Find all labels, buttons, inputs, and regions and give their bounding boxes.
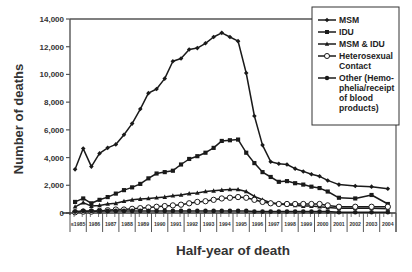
legend-label: MSM xyxy=(339,15,359,25)
y-tick-label: 12,000 xyxy=(40,43,65,52)
x-tick-label: 1998 xyxy=(284,221,296,227)
y-tick-label: 4,000 xyxy=(44,154,65,163)
legend-label: of blood xyxy=(339,93,373,103)
x-tick-label: 1992 xyxy=(186,221,198,227)
legend-label: IDU xyxy=(339,27,354,37)
x-tick-label: 2003 xyxy=(366,221,378,227)
x-tick-label: 2001 xyxy=(333,221,345,227)
x-tick-label: 2002 xyxy=(349,221,361,227)
y-tick-label: 14,000 xyxy=(40,15,65,24)
x-tick-label: 1989 xyxy=(138,221,150,227)
x-axis: ≤198519861987198819891990199119921993199… xyxy=(62,213,396,232)
y-axis-title: Number of deaths xyxy=(11,64,26,175)
x-tick-label: 1996 xyxy=(252,221,264,227)
legend-label: Other (Hemo- xyxy=(339,73,394,83)
legend-label: MSM & IDU xyxy=(339,39,385,49)
y-axis: 02,0004,0006,0008,00010,00012,00014,000 xyxy=(40,15,70,218)
x-tick-label: 1991 xyxy=(170,221,182,227)
x-tick-label: 1995 xyxy=(235,221,247,227)
x-tick-label: 1990 xyxy=(154,221,166,227)
x-axis-title: Half-year of death xyxy=(176,243,290,258)
x-tick-label: 1999 xyxy=(301,221,313,227)
x-tick-label: 1993 xyxy=(203,221,215,227)
legend: MSMIDUMSM & IDUHeterosexualContactOther … xyxy=(312,7,399,125)
legend-label: products) xyxy=(339,103,379,113)
x-tick-label: 1987 xyxy=(105,221,117,227)
y-tick-label: 6,000 xyxy=(44,126,65,135)
x-tick-label: 1986 xyxy=(89,221,101,227)
x-tick-label: 1997 xyxy=(268,221,280,227)
x-tick-label: ≤1985 xyxy=(71,221,86,227)
line-chart: 02,0004,0006,0008,00010,00012,00014,000 … xyxy=(0,0,412,272)
legend-label: phelia/receipt xyxy=(339,83,395,93)
x-tick-label: 2004 xyxy=(382,221,394,227)
x-tick-label: 1988 xyxy=(121,221,133,227)
x-tick-label: 1994 xyxy=(219,221,231,227)
y-tick-label: 8,000 xyxy=(44,98,65,107)
legend-label: Contact xyxy=(339,61,371,71)
y-tick-label: 10,000 xyxy=(40,70,65,79)
x-tick-label: 2000 xyxy=(317,221,329,227)
legend-label: Heterosexual xyxy=(339,51,393,61)
y-tick-label: 2,000 xyxy=(44,181,65,190)
